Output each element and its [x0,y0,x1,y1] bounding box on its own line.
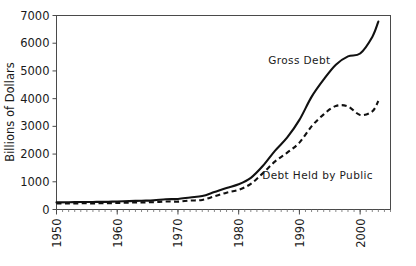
x-tick-label: 1960 [111,219,125,248]
x-tick-label: 1980 [232,219,246,248]
x-axis-tick-labels: 195019601970198019902000 [50,219,368,248]
y-tick-label: 5000 [20,64,49,78]
series-annotation-gross-debt: Gross Debt [268,54,330,66]
series-annotations: Gross DebtDebt Held by Public [262,54,373,181]
y-tick-label: 7000 [20,9,49,23]
y-axis-tick-labels: 01000200030004000500060007000 [20,9,49,217]
y-tick-label: 2000 [20,147,49,161]
y-tick-label: 1000 [20,175,49,189]
chart-canvas: 01000200030004000500060007000 1950196019… [0,0,416,266]
y-axis-title: Billions of Dollars [3,62,17,161]
x-tick-label: 1990 [293,219,307,248]
x-tick-label: 1970 [171,219,185,248]
series-line-debt-held-by-public [57,101,379,204]
y-tick-label: 4000 [20,92,49,106]
x-tick-label: 1950 [50,219,64,248]
y-axis-ticks [53,16,57,210]
debt-line-chart: 01000200030004000500060007000 1950196019… [0,0,416,266]
series-annotation-debt-held-by-public: Debt Held by Public [262,169,373,181]
x-tick-label: 2000 [354,219,368,248]
y-tick-label: 6000 [20,36,49,50]
y-tick-label: 0 [42,203,49,217]
y-tick-label: 3000 [20,119,49,133]
